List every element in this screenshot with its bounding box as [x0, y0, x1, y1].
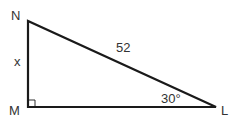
- angle-label-l: 30°: [161, 91, 181, 106]
- side-label-nl: 52: [116, 40, 130, 55]
- triangle-diagram: N M L x 52 30°: [0, 0, 242, 121]
- side-label-nm: x: [14, 54, 21, 69]
- vertex-label-m: M: [9, 103, 20, 118]
- vertex-label-l: L: [221, 103, 228, 118]
- triangle-nml: [28, 21, 216, 107]
- vertex-label-n: N: [11, 8, 20, 23]
